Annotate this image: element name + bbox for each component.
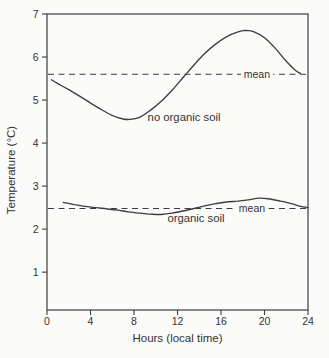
series-label-organic-soil: organic soil	[167, 212, 224, 224]
plot-frame	[47, 14, 308, 310]
temperature-chart: 048121620241234567Hours (local time)Temp…	[0, 0, 329, 358]
mean-label-organic-soil: mean	[239, 202, 265, 214]
y-tick-label: 4	[33, 137, 39, 149]
y-tick-label: 2	[33, 223, 39, 235]
y-tick-label: 3	[33, 180, 39, 192]
x-axis-title: Hours (local time)	[132, 332, 222, 344]
y-axis-title: Temperature (°C)	[5, 126, 17, 214]
y-tick-label: 5	[33, 94, 39, 106]
y-tick-label: 1	[33, 266, 39, 278]
y-tick-label: 7	[33, 8, 39, 20]
series-label-no-organic-soil: no organic soil	[148, 111, 221, 123]
x-tick-label: 16	[215, 315, 227, 327]
x-tick-label: 8	[131, 315, 137, 327]
x-tick-label: 0	[44, 315, 50, 327]
x-tick-label: 20	[259, 315, 271, 327]
figure: 048121620241234567Hours (local time)Temp…	[0, 0, 329, 358]
mean-label-no-organic-soil: mean	[244, 68, 270, 80]
x-tick-label: 24	[302, 315, 314, 327]
y-tick-label: 6	[33, 51, 39, 63]
x-tick-label: 4	[88, 315, 94, 327]
x-tick-label: 12	[172, 315, 184, 327]
